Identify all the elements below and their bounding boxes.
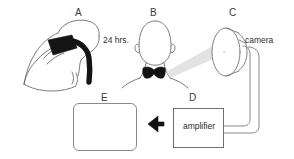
figure-artwork xyxy=(0,0,294,159)
flow-arrow xyxy=(148,116,164,132)
panel-label-c: C xyxy=(229,8,237,18)
thyroid-scintigraphy-figure: amplifier A B C D E 24 hrs. camera xyxy=(0,0,294,159)
panel-label-e: E xyxy=(101,93,108,103)
panel-c-drawing xyxy=(212,28,247,76)
gamma-beam xyxy=(166,44,218,78)
panel-label-b: B xyxy=(150,8,157,18)
patch-shape xyxy=(48,35,77,55)
thyroid-mark xyxy=(143,67,166,78)
elapsed-time-label: 24 hrs. xyxy=(103,36,129,45)
panel-label-a: A xyxy=(75,8,82,18)
panel-label-d: D xyxy=(189,93,197,103)
scan-screen-frame xyxy=(73,103,137,151)
amplifier-label: amplifier xyxy=(175,122,223,131)
panel-b-drawing xyxy=(122,21,188,88)
camera-label: camera xyxy=(245,36,273,45)
